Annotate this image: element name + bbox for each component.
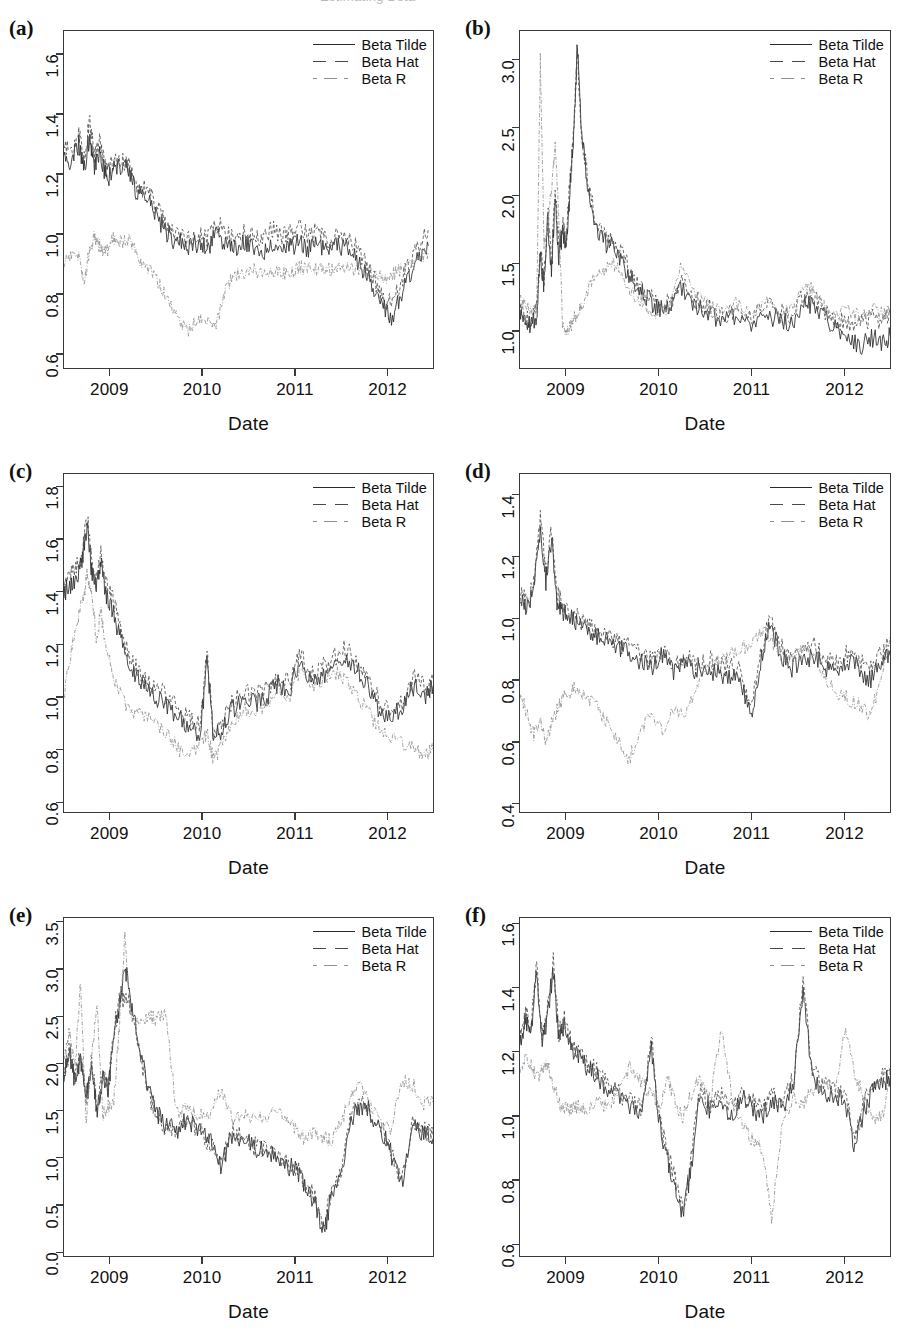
x-axis: 2009201020112012Date	[63, 1257, 434, 1343]
plot-area: Beta TildeBeta HatBeta R	[519, 473, 891, 813]
legend-line-swatch-dash-dot-icon	[770, 960, 812, 972]
x-axis-tick-label: 2009	[546, 380, 585, 400]
panel-label: (d)	[465, 459, 491, 484]
chart-panel-d: (d)0.40.60.81.01.21.4Beta TildeBeta HatB…	[456, 455, 913, 899]
tick-mark-icon	[844, 813, 845, 820]
series-line-beta-r	[64, 569, 433, 763]
x-axis-tick-label: 2010	[639, 1268, 678, 1288]
legend-item: Beta R	[770, 70, 885, 87]
legend-line-swatch-solid-icon	[313, 39, 355, 51]
chart-panel-e: (e)0.00.51.01.52.02.53.03.5Beta TildeBet…	[0, 899, 456, 1343]
x-axis: 2009201020112012Date	[63, 369, 434, 455]
legend-item: Beta R	[770, 957, 885, 974]
tick-mark-icon	[844, 369, 845, 376]
x-axis: 2009201020112012Date	[519, 1257, 891, 1343]
y-axis-tick-label: 3.0	[44, 969, 63, 993]
y-axis-tick-label: 1.0	[44, 1158, 63, 1182]
y-axis-tick-label: 0.4	[500, 804, 519, 828]
y-axis-tick-label: 1.0	[44, 697, 63, 721]
x-axis-title: Date	[519, 857, 891, 879]
x-axis-tick-label: 2011	[276, 1268, 313, 1288]
x-axis-tick-label: 2011	[276, 824, 313, 844]
tick-mark-icon	[751, 1257, 752, 1264]
y-axis-tick-label: 1.2	[44, 644, 63, 668]
legend-line-swatch-dash-dot-icon	[313, 73, 355, 85]
y-axis-tick-label: 1.0	[500, 1116, 519, 1140]
x-axis-tick-label: 2012	[825, 380, 864, 400]
legend-line-swatch-dash-dot-icon	[313, 960, 355, 972]
legend-label: Beta Hat	[362, 497, 419, 513]
legend-item: Beta Hat	[770, 940, 885, 957]
x-axis-tick-label: 2010	[183, 1268, 222, 1288]
x-axis-tick-label: 2011	[733, 380, 770, 400]
y-axis-tick-label: 1.4	[500, 988, 519, 1012]
legend-line-swatch-dash-dot-icon	[770, 516, 812, 528]
legend-label: Beta Tilde	[362, 924, 428, 940]
x-axis-title: Date	[63, 413, 434, 435]
legend-label: Beta R	[819, 71, 864, 87]
legend-line-swatch-dashed-icon	[313, 499, 355, 511]
legend-label: Beta R	[819, 958, 864, 974]
y-axis: 0.60.81.01.21.41.61.8	[0, 473, 63, 813]
y-axis-tick-label: 1.2	[500, 1052, 519, 1076]
chart-panel-b: (b)1.01.52.02.53.0Beta TildeBeta HatBeta…	[456, 12, 913, 455]
legend-line-swatch-dash-dot-icon	[313, 516, 355, 528]
y-axis: 0.60.81.01.21.41.6	[456, 917, 519, 1257]
legend-line-swatch-solid-icon	[313, 926, 355, 938]
x-axis-tick-label: 2009	[546, 1268, 585, 1288]
tick-mark-icon	[109, 369, 110, 376]
plot-area: Beta TildeBeta HatBeta R	[63, 917, 434, 1257]
tick-mark-icon	[294, 1257, 295, 1264]
x-axis-tick-label: 2012	[825, 1268, 864, 1288]
legend-item: Beta Tilde	[313, 479, 428, 496]
y-axis: 0.00.51.01.52.02.53.03.5	[0, 917, 63, 1257]
y-axis-tick-label: 0.8	[44, 294, 63, 318]
series-line-beta-hat	[520, 52, 890, 331]
panel-label: (b)	[465, 16, 491, 41]
y-axis-tick-label: 1.2	[44, 174, 63, 198]
legend-item: Beta Tilde	[770, 36, 885, 53]
y-axis-tick-label: 2.5	[500, 128, 519, 152]
tick-mark-icon	[658, 813, 659, 820]
tick-mark-icon	[294, 813, 295, 820]
y-axis-tick-label: 0.8	[44, 750, 63, 774]
x-axis-tick-label: 2010	[639, 824, 678, 844]
legend-item: Beta Hat	[313, 496, 428, 513]
tick-mark-icon	[387, 369, 388, 376]
legend-line-swatch-solid-icon	[313, 482, 355, 494]
legend-item: Beta Tilde	[313, 923, 428, 940]
legend-label: Beta Tilde	[819, 480, 885, 496]
chart-panel-f: (f)0.60.81.01.21.41.6Beta TildeBeta HatB…	[456, 899, 913, 1343]
plot-area: Beta TildeBeta HatBeta R	[519, 30, 891, 369]
legend-line-swatch-dashed-icon	[770, 56, 812, 68]
y-axis-tick-label: 1.0	[500, 618, 519, 642]
legend-item: Beta R	[313, 957, 428, 974]
legend-label: Beta Tilde	[819, 37, 885, 53]
series-line-beta-tilde	[520, 527, 890, 718]
y-axis-tick-label: 1.6	[500, 923, 519, 947]
y-axis: 0.60.81.01.21.41.6	[0, 30, 63, 369]
chart-panel-a: (a)0.60.81.01.21.41.6Beta TildeBeta HatB…	[0, 12, 456, 455]
page-header-sliver: Estimating Beta	[0, 0, 913, 12]
y-axis-tick-label: 3.0	[500, 60, 519, 84]
tick-mark-icon	[109, 1257, 110, 1264]
legend-item: Beta Hat	[770, 496, 885, 513]
x-axis-tick-label: 2010	[183, 380, 222, 400]
tick-mark-icon	[658, 369, 659, 376]
legend-line-swatch-solid-icon	[770, 926, 812, 938]
y-axis-tick-label: 2.0	[500, 195, 519, 219]
legend-item: Beta R	[313, 70, 428, 87]
legend-item: Beta Tilde	[770, 923, 885, 940]
legend-item: Beta R	[770, 513, 885, 530]
chart-legend: Beta TildeBeta HatBeta R	[768, 922, 887, 975]
x-axis-tick-label: 2010	[639, 380, 678, 400]
tick-mark-icon	[201, 813, 202, 820]
legend-item: Beta R	[313, 513, 428, 530]
tick-mark-icon	[387, 813, 388, 820]
x-axis-tick-label: 2012	[368, 380, 407, 400]
y-axis-tick-label: 2.5	[44, 1016, 63, 1040]
legend-line-swatch-solid-icon	[770, 39, 812, 51]
y-axis-tick-label: 1.8	[44, 486, 63, 510]
legend-line-swatch-dash-dot-icon	[770, 73, 812, 85]
panel-label: (a)	[9, 16, 34, 41]
